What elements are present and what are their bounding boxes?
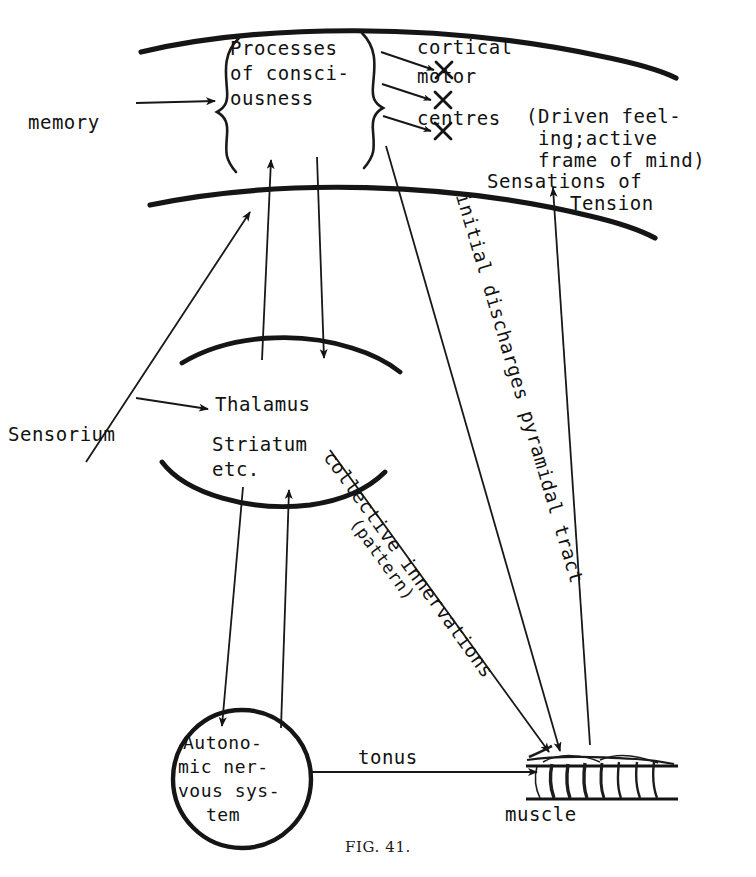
- sensations-tension-line: [553, 188, 590, 745]
- muscle-label: muscle: [505, 802, 577, 827]
- cortex-label-line2: of consci-: [230, 61, 349, 86]
- memory-label: memory: [28, 110, 100, 135]
- cortex-label-line3: ousness: [230, 86, 314, 111]
- sensations-line2: Tension: [570, 191, 654, 216]
- figure-caption: FIG. 41.: [0, 838, 756, 856]
- centres-label: centres: [417, 106, 501, 131]
- muscle-shape: [526, 746, 678, 799]
- striatum-label-line2: etc.: [212, 457, 260, 482]
- memory-arrow: [136, 101, 215, 103]
- thalamus-label: Thalamus: [215, 392, 311, 417]
- right-brace: [362, 33, 383, 168]
- figure-caption-text: FIG. 41.: [345, 838, 411, 856]
- autonomic-label-line2: mic ner-: [178, 755, 269, 779]
- cortical-label: cortical: [417, 35, 513, 60]
- autonomic-label-line3: vous sys-: [178, 779, 280, 803]
- motor-label: motor: [417, 64, 477, 89]
- sensorium-arrow: [136, 398, 208, 409]
- tonus-label: tonus: [358, 745, 418, 770]
- thalamus-top-arc: [182, 338, 400, 372]
- striatum-label-line1: Striatum: [212, 432, 308, 457]
- sensorium-label: Sensorium: [8, 422, 115, 447]
- cortex-outer-arc: [141, 31, 676, 78]
- autonomic-label-line4: tem: [206, 803, 240, 827]
- autonomic-to-thalamus-line: [281, 490, 289, 728]
- cortex-label-line1: Processes: [230, 36, 337, 61]
- autonomic-label-line1: Autono-: [183, 731, 262, 755]
- thalamus-to-autonomic-line: [222, 487, 243, 726]
